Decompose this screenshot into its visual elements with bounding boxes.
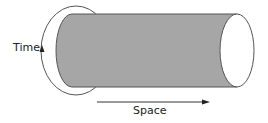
space-arrow-icon — [202, 100, 210, 105]
spacetime-cylinder-diagram: Time Space — [0, 0, 268, 123]
space-axis-label: Space — [133, 105, 167, 117]
cylinder-end-cap — [220, 14, 254, 87]
cylinder-body — [56, 14, 237, 87]
time-axis-label: Time — [13, 42, 40, 54]
time-arrow-icon — [40, 45, 45, 52]
